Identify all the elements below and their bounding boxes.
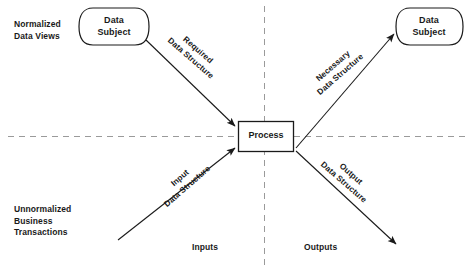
quadrant-label-outputs: Outputs [304,242,337,254]
quadrant-label-unnormalized-business-transactions: Unnormalized Business Transactions [14,204,71,239]
process-label: Process [238,130,294,140]
quadrant-label-normalized-data-views: Normalized Data Views [14,19,61,42]
data-subject-left-label: Data Subject [82,15,146,38]
diagram-canvas: Data Subject Data Subject Process Normal… [0,0,473,276]
quadrant-label-inputs: Inputs [192,242,218,254]
data-subject-right-label: Data Subject [398,15,460,38]
